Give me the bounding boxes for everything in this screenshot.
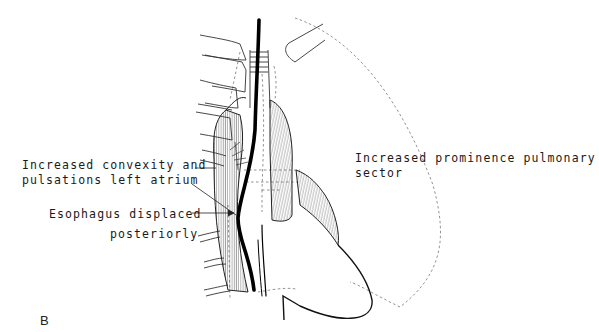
label-esophagus-line2: posteriorly: [110, 227, 198, 241]
clavicle: [286, 24, 325, 62]
label-left-atrium-line1: Increased convexity and: [22, 158, 207, 172]
pulmonary-bulge: [296, 170, 338, 245]
label-left-atrium-line2: pulsations left atrium: [22, 173, 199, 187]
label-pulmonary-line1: Increased prominence pulmonary: [355, 151, 596, 165]
panel-label: B: [40, 313, 49, 328]
trachea: [250, 50, 270, 108]
left-ventricle: [283, 245, 372, 320]
label-esophagus-line1: Esophagus displaced: [49, 207, 201, 221]
label-pulmonary-line2: sector: [355, 166, 403, 180]
aorta-pulmonary: [270, 100, 292, 221]
esophagus: [238, 20, 266, 296]
